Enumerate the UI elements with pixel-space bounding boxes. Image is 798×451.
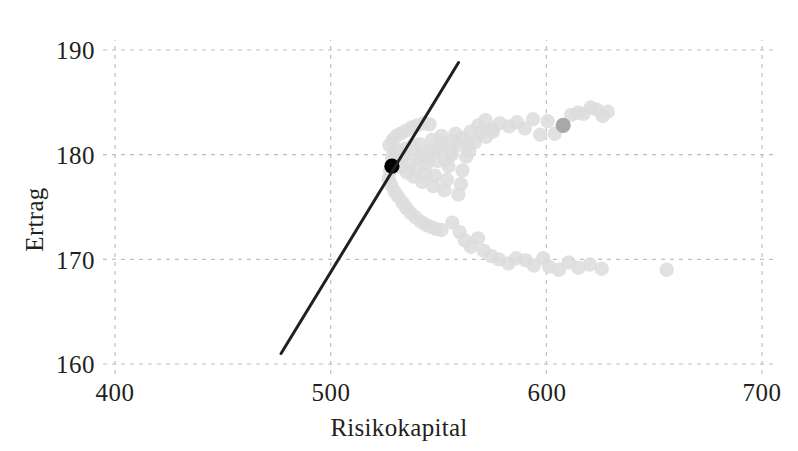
data-point: [601, 105, 615, 119]
data-point: [455, 163, 469, 177]
data-point: [433, 136, 447, 150]
x-axis-title: Risikokapital: [0, 415, 798, 440]
gridlines: [103, 40, 774, 374]
data-points-layer: [381, 100, 673, 277]
data-point: [526, 112, 540, 126]
y-axis-title: Ertrag: [22, 140, 47, 300]
x-tick-500: 500: [312, 380, 351, 405]
y-tick-190: 190: [20, 38, 95, 63]
scatter-chart: 190 180 170 160 400 500 600 700 Risikoka…: [0, 0, 798, 451]
x-tick-700: 700: [743, 380, 782, 405]
data-point: [533, 128, 547, 142]
data-point: [471, 231, 485, 245]
data-point: [471, 118, 485, 132]
x-tick-600: 600: [528, 380, 567, 405]
data-point: [440, 173, 454, 187]
capital-market-line: [281, 63, 458, 354]
y-tick-160: 160: [20, 352, 95, 377]
data-point: [556, 118, 571, 133]
data-point: [540, 114, 554, 128]
data-point: [659, 263, 673, 277]
data-point: [595, 262, 609, 276]
trend-line: [281, 63, 458, 354]
data-point: [454, 177, 468, 191]
x-tick-400: 400: [96, 380, 135, 405]
